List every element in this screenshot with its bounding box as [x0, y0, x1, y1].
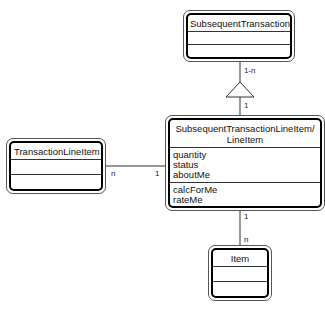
multiplicity-assoc-item-1: 1 [244, 212, 248, 221]
class-box: TransactionLineItem [9, 141, 103, 191]
class-item[interactable]: Item [208, 245, 272, 301]
class-name: Item [213, 250, 267, 267]
class-box: SubsequentTransactionLineItem/ LineItem … [168, 118, 322, 208]
multiplicity-assoc-left-1: 1 [155, 169, 159, 178]
generalization-triangle-icon [226, 82, 254, 97]
class-name-line-2: LineItem [172, 134, 318, 145]
multiplicity-assoc-item-n: n [244, 235, 248, 244]
class-box: Item [211, 248, 269, 298]
class-box: SubsequentTransaction [186, 13, 292, 59]
class-name: SubsequentTransaction [188, 15, 290, 32]
class-name-line-1: SubsequentTransactionLineItem/ [172, 123, 318, 134]
class-name: TransactionLineItem [11, 143, 101, 160]
operations-section [188, 45, 290, 57]
attributes-section [213, 267, 267, 282]
class-subsequent-transaction-line-item[interactable]: SubsequentTransactionLineItem/ LineItem … [165, 115, 325, 211]
attribute-about-me: aboutMe [173, 170, 317, 180]
multiplicity-gen-top: 1-n [244, 66, 256, 75]
operations-section [11, 175, 101, 189]
multiplicity-gen-bottom: 1 [244, 101, 248, 110]
class-subsequent-transaction[interactable]: SubsequentTransaction [183, 10, 295, 62]
operations-section: calcForMe rateMe [170, 183, 320, 207]
operations-section [213, 282, 267, 296]
attributes-section [188, 32, 290, 45]
attributes-section: quantity status aboutMe [170, 148, 320, 183]
class-name: SubsequentTransactionLineItem/ LineItem [170, 120, 320, 148]
multiplicity-assoc-left-n: n [111, 169, 115, 178]
operation-rate-me: rateMe [173, 195, 317, 205]
class-transaction-line-item[interactable]: TransactionLineItem [6, 138, 106, 194]
attributes-section [11, 160, 101, 175]
